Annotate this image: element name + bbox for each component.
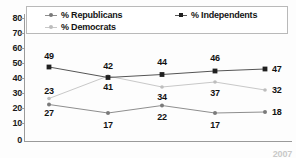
data-label-independents: 46 <box>210 54 219 63</box>
data-label-independents: 47 <box>272 65 281 74</box>
data-label-democrats: 37 <box>210 89 219 98</box>
legend-label-independents: % Independents <box>191 10 257 20</box>
data-label-independents: 49 <box>44 52 53 61</box>
data-label-republicans: 23 <box>44 87 53 96</box>
data-label-republicans: 17 <box>103 121 112 130</box>
legend-label-republicans: % Republicans <box>61 10 122 20</box>
series-line-independents <box>47 65 268 80</box>
data-label-democrats: 34 <box>157 93 166 102</box>
legend-label-democrats: % Democrats <box>61 22 116 32</box>
x-axis-labels-cropped: 2007 <box>0 149 296 158</box>
legend-item-democrats[interactable]: % Democrats <box>45 22 116 32</box>
data-label-democrats: 41 <box>103 83 112 92</box>
legend-marker-democrats-icon <box>45 23 57 31</box>
data-label-republicans: 17 <box>210 121 219 130</box>
legend-item-independents[interactable]: % Independents <box>175 10 257 20</box>
legend-item-republicans[interactable]: % Republicans <box>45 10 122 20</box>
legend-marker-independents-icon <box>175 11 187 19</box>
legend-marker-republicans-icon <box>45 11 57 19</box>
data-label-independents: 44 <box>157 58 166 67</box>
line-chart: 80 70 60 50 40 30 20 10 0 <box>0 0 296 158</box>
data-label-republicans: 22 <box>157 113 166 122</box>
legend: % Republicans % Democrats % Independents <box>26 6 288 34</box>
data-label-independents: 42 <box>103 62 112 71</box>
data-label-republicans: 18 <box>272 108 281 117</box>
data-label-democrats: 32 <box>272 86 281 95</box>
data-label-democrats: 27 <box>44 109 53 118</box>
x-axis-year-label: 2007 <box>273 149 292 158</box>
